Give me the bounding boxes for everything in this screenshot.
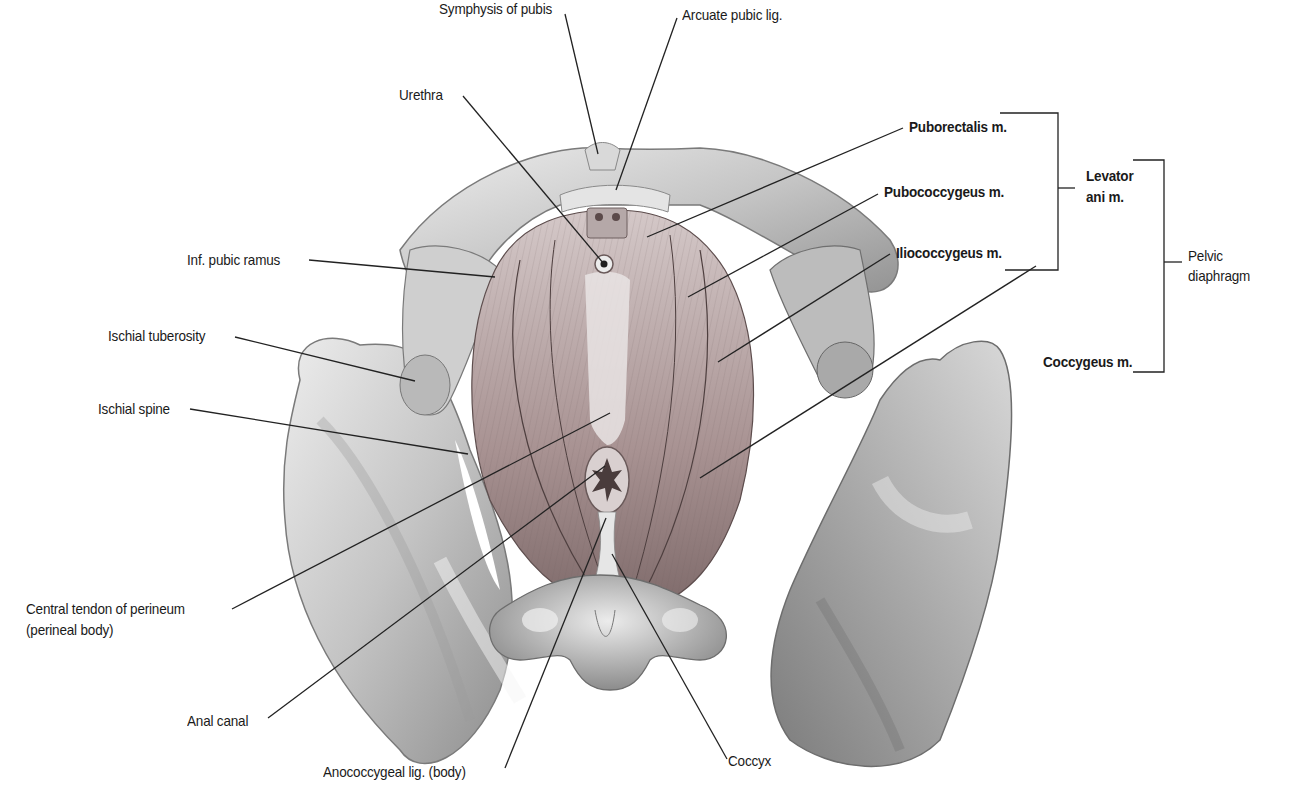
label-ischial-spine: Ischial spine [98,400,170,418]
label-inf-pubic-ramus: Inf. pubic ramus [187,251,280,269]
figure-stage: Symphysis of pubis Arcuate pubic lig. Ur… [0,0,1300,806]
label-levator-ani-line2: ani m. [1086,188,1124,206]
label-anal-canal: Anal canal [187,712,248,730]
label-coccygeus: Coccygeus m. [1043,353,1132,371]
label-arcuate-pubic-lig: Arcuate pubic lig. [682,6,782,24]
vaginal-orifice [587,208,627,238]
pelvis-illustration [0,0,1300,806]
label-iliococcygeus: Iliococcygeus m. [896,244,1002,262]
label-central-tendon: Central tendon of perineum [26,600,185,618]
label-coccyx: Coccyx [728,752,771,770]
label-pelvic-diaphragm-line2: diaphragm [1188,267,1250,285]
label-levator-ani-line1: Levator [1086,167,1134,185]
label-ischial-tuberosity: Ischial tuberosity [108,327,205,345]
label-pubococcygeus: Pubococcygeus m. [884,183,1004,201]
label-anococcygeal-lig: Anococcygeal lig. (body) [323,763,466,781]
right-hip-bone [771,341,1011,766]
sacrum-coccyx [490,575,727,690]
label-symphysis-of-pubis: Symphysis of pubis [439,0,552,18]
label-pelvic-diaphragm-line1: Pelvic [1188,247,1223,265]
label-urethra: Urethra [399,86,443,104]
label-puborectalis: Puborectalis m. [909,118,1007,136]
levator-ani-bracket [1000,113,1075,270]
label-perineal-body: (perineal body) [26,621,113,639]
pelvic-diaphragm-bracket [1133,160,1182,372]
